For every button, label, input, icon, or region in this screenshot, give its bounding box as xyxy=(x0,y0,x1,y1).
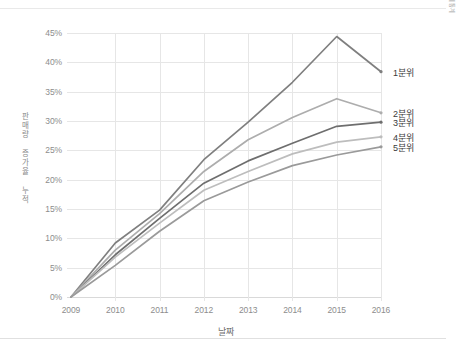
y-axis-tick-label: 5% xyxy=(50,263,62,273)
y-axis-title-char xyxy=(19,176,32,185)
series-endpoint-marker xyxy=(379,111,382,114)
series-endpoint-marker xyxy=(379,135,382,138)
y-axis-tick-label: 40% xyxy=(45,57,62,67)
source-note-label: 출처: 한국은행 경제통계 xyxy=(449,0,456,2)
series-line-4 xyxy=(71,137,381,297)
series-endpoint-marker xyxy=(379,145,382,148)
y-axis-title-char: 량 xyxy=(19,130,32,139)
y-axis-title-char: 판 xyxy=(19,112,32,121)
y-axis-title-char: 증 xyxy=(19,149,32,158)
y-axis-tick-label: 0% xyxy=(50,292,62,302)
x-axis-tick-label: 2014 xyxy=(283,305,302,315)
y-axis-tick-label: 20% xyxy=(45,175,62,185)
series-label-5: 5분위 xyxy=(393,141,413,154)
x-axis-tick-label: 2010 xyxy=(106,305,125,315)
y-axis-tick-label: 45% xyxy=(45,28,62,38)
y-axis-tick-label: 30% xyxy=(45,116,62,126)
x-axis-tick-label: 2015 xyxy=(327,305,346,315)
series-line-5 xyxy=(71,147,381,297)
series-endpoint-marker xyxy=(379,70,382,73)
y-axis-tick-label: 35% xyxy=(45,87,62,97)
y-axis-title-char: 매 xyxy=(19,121,32,130)
y-axis-title-char: 누 xyxy=(19,186,32,195)
series-line-1 xyxy=(71,37,381,297)
x-axis-tick-label: 2009 xyxy=(62,305,81,315)
series-endpoint-marker xyxy=(379,121,382,124)
plot-area: 0%5%10%15%20%25%30%35%40%45%200920102011… xyxy=(71,33,381,297)
series-line-3 xyxy=(71,122,381,297)
x-axis-tick-label: 2012 xyxy=(195,305,214,315)
series-label-3: 3분위 xyxy=(393,116,413,129)
y-axis-tick-label: 25% xyxy=(45,145,62,155)
x-axis-tick-label: 2011 xyxy=(151,305,169,315)
series-line-2 xyxy=(71,99,381,297)
y-axis-title: 판매량 증가율 누적 xyxy=(19,112,32,204)
y-axis-title-char: 율 xyxy=(19,167,32,176)
y-axis-title-char: 가 xyxy=(19,158,32,167)
y-axis-title-char xyxy=(19,140,32,149)
y-axis-tick-label: 10% xyxy=(45,233,62,243)
x-axis-tick-label: 2013 xyxy=(239,305,258,315)
x-axis-tick-label: 2016 xyxy=(372,305,391,315)
x-axis-title: 날짜 xyxy=(71,325,381,338)
y-axis-tick-label: 15% xyxy=(45,204,62,214)
y-axis-title-char: 적 xyxy=(19,195,32,204)
series-label-1: 1분위 xyxy=(393,66,413,79)
